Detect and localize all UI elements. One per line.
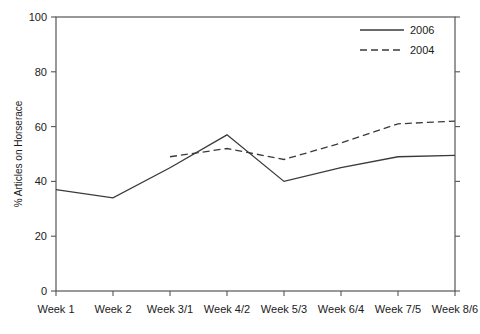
chart-figure: % Articles on Horserace 020406080100 Wee… xyxy=(0,0,480,334)
y-axis-ticks: 020406080100 xyxy=(29,11,460,297)
y-tick-label: 60 xyxy=(35,121,47,133)
x-tick-label: Week 4/2 xyxy=(204,303,250,315)
y-tick-label: 20 xyxy=(35,230,47,242)
chart-legend: 20062004 xyxy=(360,24,434,56)
x-tick-label: Week 8/6 xyxy=(432,303,478,315)
line-chart: % Articles on Horserace 020406080100 Wee… xyxy=(0,0,480,334)
legend-label-2006: 2006 xyxy=(410,24,434,36)
x-tick-label: Week 6/4 xyxy=(318,303,364,315)
x-tick-label: Week 3/1 xyxy=(147,303,193,315)
y-axis-title: % Articles on Horserace xyxy=(13,100,24,207)
x-tick-label: Week 1 xyxy=(37,303,74,315)
x-tick-label: Week 7/5 xyxy=(375,303,421,315)
legend-label-2004: 2004 xyxy=(410,44,434,56)
x-tick-label: Week 2 xyxy=(94,303,131,315)
y-tick-label: 80 xyxy=(35,66,47,78)
data-series-group xyxy=(56,121,455,198)
y-tick-label: 0 xyxy=(41,285,47,297)
series-line-2004 xyxy=(170,121,455,159)
series-line-2006 xyxy=(56,135,455,198)
x-axis-ticks: Week 1Week 2Week 3/1Week 4/2Week 5/3Week… xyxy=(37,291,478,315)
x-tick-label: Week 5/3 xyxy=(261,303,307,315)
plot-frame xyxy=(56,17,455,291)
y-axis-title-text: % Articles on Horserace xyxy=(13,100,24,207)
y-tick-label: 100 xyxy=(29,11,47,23)
y-tick-label: 40 xyxy=(35,175,47,187)
